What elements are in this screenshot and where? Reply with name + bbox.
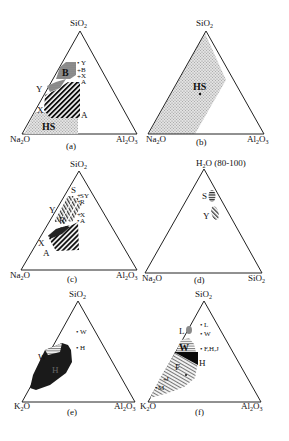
region-HS-b — [149, 33, 226, 134]
label-X-a: X — [37, 105, 44, 115]
region-Y-d — [210, 205, 220, 220]
ternary-triangle-d — [145, 169, 262, 273]
svg-text:F,H,J: F,H,J — [204, 345, 219, 353]
label-Y-c: Y — [49, 205, 56, 215]
label-A-c: A — [43, 248, 50, 258]
point-markers-e: •W •H — [76, 328, 87, 352]
panel-b: SiO2 HS Na2O (b) Al2O3 — [146, 18, 269, 147]
panel-d: H2O (80-100) S Y Na2O (d) SiO2 — [142, 158, 265, 285]
caption-b: (b) — [196, 137, 207, 147]
region-S-d — [209, 190, 216, 202]
svg-text:•: • — [200, 345, 203, 353]
label-HS-a: HS — [42, 121, 56, 132]
svg-text:•: • — [200, 321, 203, 329]
svg-text:•: • — [76, 328, 79, 336]
svg-text:W: W — [204, 330, 211, 338]
label-W-f: W — [179, 342, 189, 353]
apex-label-d: H2O (80-100) — [196, 158, 246, 169]
right-label-b: Al2O3 — [247, 134, 269, 145]
svg-text:W: W — [80, 328, 87, 336]
left-label-e: K2O — [14, 401, 31, 412]
label-B-a: B — [62, 67, 69, 78]
svg-text:A: A — [80, 217, 85, 225]
svg-text:•: • — [76, 344, 79, 352]
panel-c: SiO2 S Y R X A +SY +R +X •A Na2O (c) Al2… — [10, 159, 138, 284]
svg-text:•: • — [77, 59, 80, 67]
svg-text:H: H — [80, 344, 85, 352]
apex-label-e: SiO2 — [69, 289, 86, 300]
label-H-f: H — [199, 358, 206, 368]
label-Y-a: Y — [36, 84, 43, 94]
right-label-f: Al2O3 — [241, 401, 263, 412]
left-label-a: Na2O — [10, 134, 31, 145]
svg-text:M: M — [158, 384, 165, 392]
caption-a: (a) — [66, 141, 76, 151]
svg-text:A: A — [81, 78, 86, 86]
right-label-e: Al2O3 — [114, 401, 136, 412]
apex-label-f: SiO2 — [195, 289, 212, 300]
svg-text:J: J — [166, 375, 169, 383]
panel-e: SiO2 W H •W •H K2O (e) Al2O3 — [14, 289, 136, 417]
label-HS-b: HS — [193, 81, 207, 92]
right-label-d: SiO2 — [248, 273, 265, 284]
svg-text:L: L — [204, 321, 208, 329]
region-L-f — [186, 326, 192, 334]
point-HS-b — [199, 93, 201, 95]
right-label-c: Al2O3 — [116, 270, 138, 281]
ternary-diagram-figure: SiO2 B A HS Y X •Y +B +X •A Na2O (a) Al2… — [0, 0, 289, 441]
svg-text:•: • — [200, 330, 203, 338]
label-S-c: S — [71, 185, 76, 195]
label-W-e: W — [38, 352, 47, 362]
apex-label-c: SiO2 — [70, 159, 87, 170]
label-R-c: R — [59, 215, 65, 225]
label-F-f: F — [175, 362, 180, 372]
apex-label-b: SiO2 — [196, 18, 213, 29]
caption-c: (c) — [67, 274, 77, 284]
left-label-f: K2O — [140, 401, 157, 412]
svg-text:R: R — [80, 198, 85, 206]
right-label-a: Al2O3 — [116, 134, 138, 145]
label-H-e: H — [52, 365, 59, 375]
left-label-b: Na2O — [146, 134, 167, 145]
caption-d: (d) — [194, 275, 205, 285]
caption-f: (f) — [195, 407, 204, 417]
left-label-d: Na2O — [142, 273, 163, 284]
label-S-d: S — [202, 191, 207, 201]
apex-label-a: SiO2 — [70, 18, 87, 29]
label-X-c: X — [38, 238, 45, 248]
panel-a: SiO2 B A HS Y X •Y +B +X •A Na2O (a) Al2… — [10, 18, 138, 151]
label-L-f: L — [179, 326, 185, 336]
left-label-c: Na2O — [10, 270, 31, 281]
caption-e: (e) — [67, 407, 77, 417]
label-A-a: A — [81, 110, 88, 120]
point-dot-f — [185, 374, 187, 376]
label-Y-d: Y — [203, 211, 210, 221]
panel-f: SiO2 L W H F •L •W •F,H,J +J •M K2O (f) … — [140, 289, 263, 417]
point-markers-a: •Y +B +X •A — [77, 59, 86, 87]
